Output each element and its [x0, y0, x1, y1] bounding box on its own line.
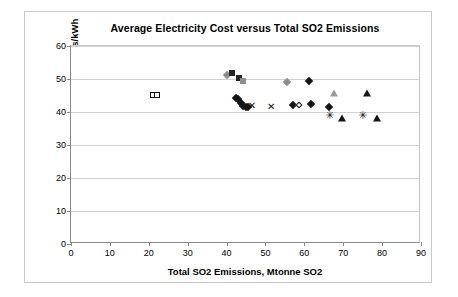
data-point-triangle: [330, 89, 338, 96]
y-tick-label: 60: [56, 41, 66, 51]
data-point-diamond: [288, 101, 296, 109]
x-tick-label: 70: [338, 248, 348, 258]
x-tick-label: 20: [144, 248, 154, 258]
data-point-diamond: [325, 103, 333, 111]
y-tick-mark: [67, 79, 71, 80]
data-point-diamond: [243, 103, 251, 111]
chart-figure: Average Electricity Cost versus Total SO…: [0, 0, 458, 297]
data-point-x: ✕: [266, 103, 276, 111]
x-tick-label: 40: [222, 248, 232, 258]
y-tick-mark: [67, 46, 71, 47]
data-point-diamond: [236, 99, 244, 107]
data-point-diamond: [222, 70, 230, 78]
gridline: [71, 79, 419, 80]
data-point-star: ✳: [325, 112, 335, 120]
y-tick-mark: [67, 211, 71, 212]
data-point-square-open: [150, 92, 156, 98]
y-tick-label: 20: [56, 173, 66, 183]
x-tick-label: 90: [416, 248, 426, 258]
data-point-triangle: [338, 114, 346, 121]
x-tick-label: 60: [299, 248, 309, 258]
x-tick-label: 0: [68, 248, 73, 258]
x-tick-label: 50: [260, 248, 270, 258]
y-tick-mark: [67, 178, 71, 179]
data-point-x: ✕: [247, 102, 257, 110]
x-tick-mark: [304, 242, 305, 246]
y-tick-label: 30: [56, 140, 66, 150]
gridline: [71, 178, 419, 179]
x-axis-title: Total SO2 Emissions, Mtonne SO2: [70, 266, 420, 277]
y-tick-label: 0: [61, 239, 66, 249]
data-point-diamond: [307, 100, 315, 108]
data-point-diamond-open: [295, 102, 302, 109]
x-tick-mark: [343, 242, 344, 246]
x-tick-label: 30: [183, 248, 193, 258]
x-tick-mark: [188, 242, 189, 246]
x-tick-mark: [227, 242, 228, 246]
data-point-star: ✳: [358, 112, 368, 120]
gridline: [71, 112, 419, 113]
data-point-triangle: [363, 90, 371, 97]
gridline: [71, 211, 419, 212]
y-tick-mark: [67, 112, 71, 113]
gridline: [71, 145, 419, 146]
data-point-square: [236, 75, 242, 81]
y-tick-mark: [67, 145, 71, 146]
data-point-diamond: [234, 95, 242, 103]
x-tick-label: 10: [105, 248, 115, 258]
data-point-diamond: [239, 102, 247, 110]
x-tick-mark: [265, 242, 266, 246]
x-tick-mark: [71, 242, 72, 246]
data-point-triangle: [373, 114, 381, 121]
data-point-diamond: [241, 103, 249, 111]
chart-title: Average Electricity Cost versus Total SO…: [70, 22, 420, 34]
gridline: [71, 46, 419, 47]
y-tick-label: 50: [56, 74, 66, 84]
x-tick-mark: [421, 242, 422, 246]
x-tick-mark: [149, 242, 150, 246]
plot-area: 0102030405060 0102030405060708090 ✕✕✳✳: [70, 45, 420, 243]
x-tick-mark: [382, 242, 383, 246]
data-point-diamond: [232, 94, 240, 102]
y-tick-label: 40: [56, 107, 66, 117]
x-tick-mark: [110, 242, 111, 246]
y-tick-label: 10: [56, 206, 66, 216]
data-point-square-open: [154, 92, 160, 98]
data-point-square: [229, 70, 235, 76]
x-tick-label: 80: [377, 248, 387, 258]
data-point-diamond: [304, 76, 312, 84]
